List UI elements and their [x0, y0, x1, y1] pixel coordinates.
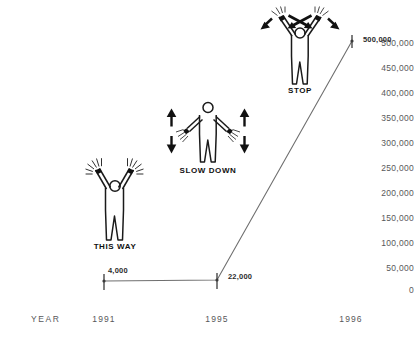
right-hand [226, 128, 233, 134]
x-tick-1991: 1991 [79, 314, 129, 324]
chart-canvas: 500,000 450,000 400,000 350,000 300,000 … [0, 0, 414, 349]
motion-lines-right [315, 7, 329, 16]
data-label-1995: 22,000 [228, 272, 252, 281]
annotation-this-way: THIS WAY [78, 152, 152, 244]
data-point-1995 [215, 278, 218, 281]
annotation-slow-down: SLOW DOWN [162, 98, 254, 168]
x-tick-1996: 1996 [326, 314, 376, 324]
annotation-caption-stop: STOP [254, 86, 346, 95]
right-hand [315, 15, 322, 21]
data-point-1991 [102, 279, 105, 282]
data-label-1996: 500,000 [363, 35, 392, 44]
arrow-down-left-icon [261, 19, 273, 30]
annotation-stop: STOP [254, 6, 346, 88]
x-tick-1995: 1995 [192, 314, 242, 324]
data-point-1996 [350, 39, 353, 42]
stick-figure-arms-up-icon [78, 152, 152, 244]
stick-figure-arms-down-icon [162, 98, 254, 168]
annotation-caption-this-way: THIS WAY [78, 242, 152, 251]
right-hand [127, 168, 134, 174]
arrow-down-right-icon [240, 136, 250, 154]
data-label-1991: 4,000 [108, 266, 128, 275]
annotation-caption-slow-down: SLOW DOWN [162, 166, 254, 175]
left-hand [279, 15, 286, 21]
crossed-arrows-icon [288, 16, 313, 29]
stick-figure-crossed-arrows-icon [254, 6, 346, 88]
motion-lines-left [272, 7, 286, 16]
left-hand [95, 168, 102, 174]
left-hand [183, 128, 190, 134]
arrow-down-left-icon [167, 136, 177, 154]
x-axis-title: YEAR [31, 314, 61, 324]
arrow-up-right-icon [240, 109, 250, 127]
arrow-up-left-icon [167, 109, 177, 127]
arrow-down-right-icon [328, 19, 340, 30]
